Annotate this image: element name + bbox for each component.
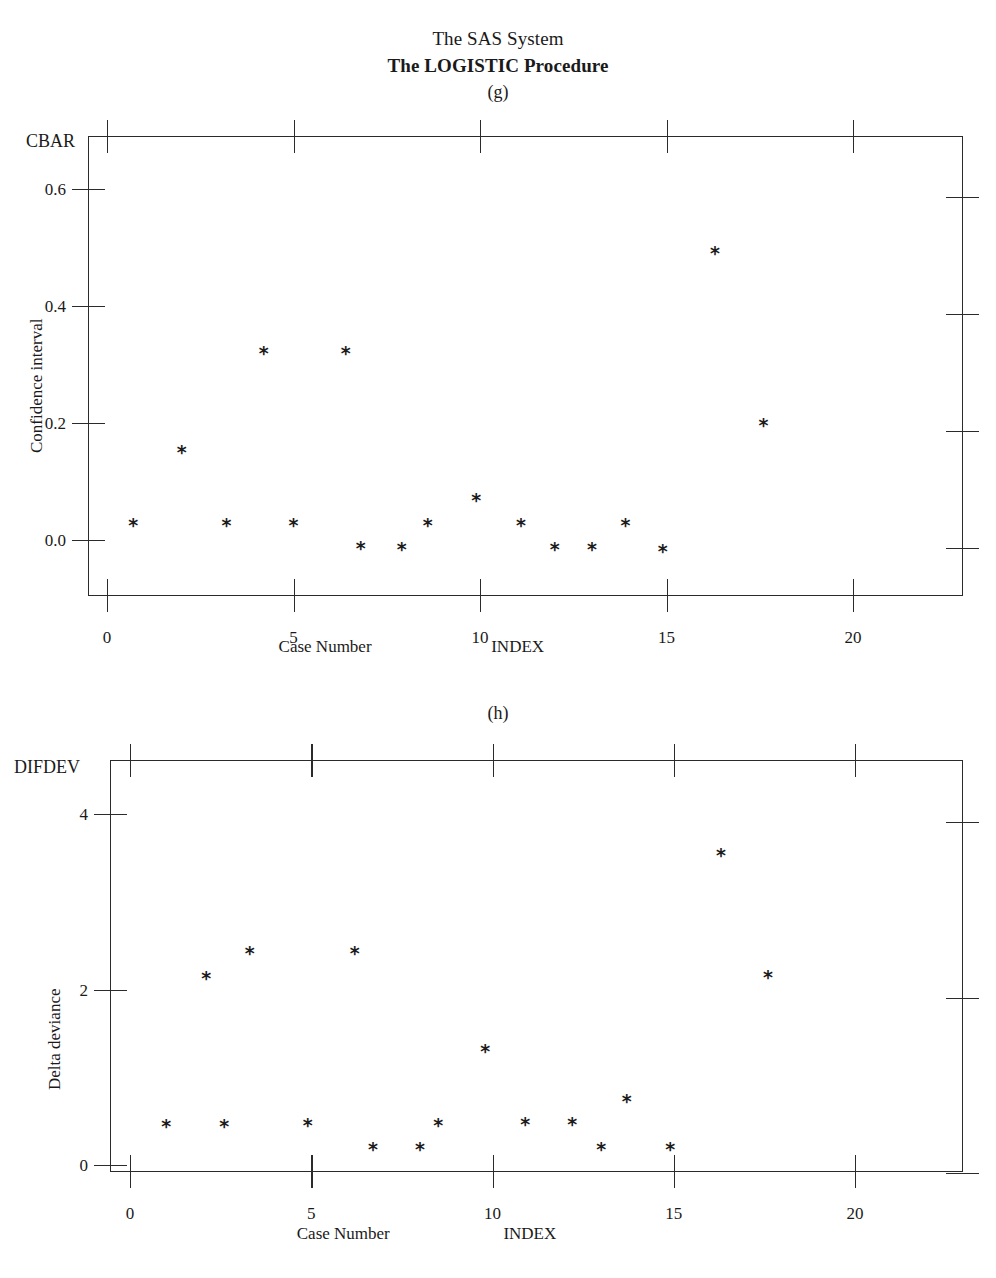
y-tick-label: 0.6 [2,181,66,198]
chart-panel-g: CBARConfidence interval0.00.20.40.605101… [0,118,996,678]
data-point-marker: * [595,1141,608,1157]
data-point-marker: * [664,1141,677,1157]
data-point-marker: * [348,945,361,961]
page-header: The SAS System The LOGISTIC Procedure (g… [0,26,996,105]
data-point-marker: * [714,847,727,863]
x-tick-top [674,744,675,777]
data-point-marker: * [762,969,775,985]
data-point-marker: * [287,517,300,533]
data-point-marker: * [200,970,213,986]
panel-tag-h: (h) [0,700,996,726]
x-tick-bottom [667,579,668,612]
data-point-marker: * [220,517,233,533]
data-point-marker: * [585,541,598,557]
x-axis-variable-name: INDEX [491,638,544,655]
data-point-marker: * [301,1117,314,1133]
x-tick-bottom [855,1155,856,1188]
y-tick-left [72,306,105,307]
x-tick-bottom [294,579,295,612]
x-tick-label: 0 [103,629,112,646]
data-point-marker: * [414,1141,427,1157]
x-axis-variable-name: INDEX [503,1225,556,1242]
x-tick-label: 5 [307,1205,316,1222]
x-tick-label: 15 [658,629,675,646]
x-tick-label: 20 [847,1205,864,1222]
y-tick-right [946,1173,979,1174]
data-point-marker: * [470,492,483,508]
x-tick-top [480,120,481,153]
data-point-marker: * [566,1116,579,1132]
y-axis-variable-name: DIFDEV [14,758,80,776]
data-point-marker: * [127,517,140,533]
y-tick-right [946,548,979,549]
plot-frame [110,760,963,1172]
data-point-marker: * [160,1118,173,1134]
x-tick-label: 10 [484,1205,501,1222]
y-tick-left [94,990,127,991]
x-tick-top [107,120,108,153]
y-tick-right [946,998,979,999]
data-point-marker: * [354,540,367,556]
chart-panel-h: (h) DIFDEVDelta deviance02405101520Case … [0,700,996,1278]
x-tick-label: 0 [126,1205,135,1222]
data-point-marker: * [519,1116,532,1132]
y-tick-label: 0.2 [2,415,66,432]
x-tick-bottom [480,579,481,612]
data-point-marker: * [339,345,352,361]
x-tick-top [294,120,295,153]
y-tick-left [94,814,127,815]
data-point-marker: * [479,1043,492,1059]
y-axis-title: Delta deviance [46,989,63,1090]
x-tick-label: 10 [472,629,489,646]
y-axis-variable-name: CBAR [26,132,75,150]
data-point-marker: * [421,517,434,533]
data-point-marker: * [366,1141,379,1157]
x-tick-label: 15 [665,1205,682,1222]
page-subtitle: The LOGISTIC Procedure [0,52,996,79]
data-point-marker: * [395,541,408,557]
x-tick-bottom [311,1155,312,1188]
x-tick-top [493,744,494,777]
y-axis-title: Confidence interval [28,318,45,453]
x-tick-top [130,744,131,777]
x-tick-bottom [107,579,108,612]
x-tick-top [853,120,854,153]
y-tick-label: 4 [24,806,88,823]
data-point-marker: * [620,1093,633,1109]
data-point-marker: * [257,345,270,361]
y-tick-left [72,423,105,424]
y-tick-label: 2 [24,981,88,998]
y-tick-right [946,197,979,198]
panel-tag-g: (g) [0,79,996,105]
x-tick-bottom [130,1155,131,1188]
data-point-marker: * [218,1118,231,1134]
data-point-marker: * [708,245,721,261]
data-point-marker: * [619,517,632,533]
x-tick-top [311,744,312,777]
x-axis-title: Case Number [297,1225,390,1242]
y-tick-label: 0.0 [2,532,66,549]
y-tick-right [946,431,979,432]
x-tick-top [855,744,856,777]
y-tick-right [946,314,979,315]
data-point-marker: * [548,541,561,557]
data-point-marker: * [515,517,528,533]
x-tick-top [667,120,668,153]
x-axis-title: Case Number [279,638,372,655]
data-point-marker: * [432,1117,445,1133]
y-tick-left [94,1165,127,1166]
x-tick-label: 20 [845,629,862,646]
x-tick-bottom [493,1155,494,1188]
y-tick-label: 0.4 [2,298,66,315]
data-point-marker: * [175,444,188,460]
y-tick-label: 0 [24,1157,88,1174]
x-tick-bottom [853,579,854,612]
data-point-marker: * [656,543,669,559]
data-point-marker: * [757,417,770,433]
page-title: The SAS System [0,26,996,52]
data-point-marker: * [243,945,256,961]
y-tick-right [946,822,979,823]
y-tick-left [72,540,105,541]
y-tick-left [72,189,105,190]
